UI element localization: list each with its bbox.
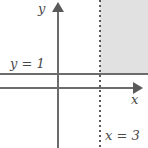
coordinate-plane-figure: y x y = 1 x = 3 <box>0 0 148 148</box>
y-axis <box>57 9 59 148</box>
y-axis-arrow-icon <box>52 2 64 12</box>
line-x-equals-3 <box>99 0 101 148</box>
line-y-equals-1 <box>0 73 148 75</box>
x-axis <box>0 87 139 89</box>
line-y-equals-1-label: y = 1 <box>10 56 45 71</box>
x-axis-label: x <box>131 92 138 107</box>
line-x-equals-3-label: x = 3 <box>105 128 140 143</box>
y-axis-label: y <box>38 1 45 16</box>
shaded-region <box>100 0 148 74</box>
